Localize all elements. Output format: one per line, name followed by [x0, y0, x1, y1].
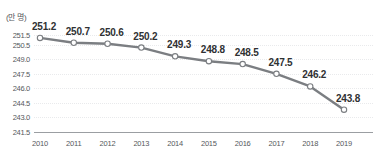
x-axis-tick-label: 2013: [133, 139, 149, 148]
y-axis-tick-label: 247.5: [13, 69, 30, 78]
x-axis: 2010201120122013201420152016201720182019: [34, 0, 379, 163]
y-axis-tick-label: 249.0: [13, 55, 30, 64]
y-axis-tick-label: 241.5: [13, 128, 30, 137]
y-axis-tick-label: 251.5: [13, 31, 30, 40]
y-axis-tick-label: 250.5: [13, 40, 30, 49]
x-axis-tick-label: 2015: [201, 139, 217, 148]
x-axis-tick-label: 2011: [66, 139, 81, 148]
x-axis-tick-label: 2010: [32, 139, 48, 148]
y-axis-tick-label: 244.5: [13, 98, 30, 107]
x-axis-tick-label: 2014: [167, 139, 183, 148]
x-axis-tick-label: 2016: [235, 139, 251, 148]
x-axis-tick-label: 2012: [100, 139, 116, 148]
x-axis-tick-label: 2019: [336, 139, 352, 148]
y-axis-tick-label: 246.0: [13, 84, 30, 93]
line-chart: (만 명) 251.5250.5249.0247.5246.0244.5243.…: [0, 0, 379, 163]
y-axis: 251.5250.5249.0247.5246.0244.5243.0241.5: [0, 0, 34, 163]
y-axis-tick-label: 243.0: [13, 113, 30, 122]
x-axis-tick-label: 2017: [268, 139, 284, 148]
x-axis-tick-label: 2018: [302, 139, 318, 148]
